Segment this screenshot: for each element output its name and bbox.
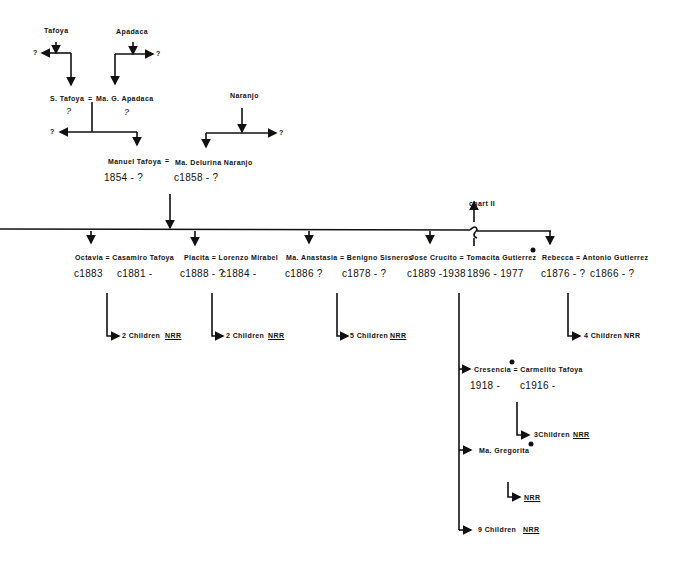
nrr-note: NRR	[390, 332, 406, 339]
child-couple-placita: Placita = Lorenzo Mirabel	[184, 254, 278, 261]
child-dates: c1888 - ?	[180, 268, 224, 279]
dates-manuel-tafoya: 1854 - ?	[104, 172, 143, 183]
unknown-mark: ?	[156, 50, 161, 57]
grandchild-9-children: 9 Children	[478, 526, 516, 533]
descendants-count: 3Children	[534, 431, 570, 438]
dates-ma-delurina: c1858 - ?	[174, 172, 218, 183]
surname-tafoya: Tafoya	[44, 27, 68, 34]
child-couple-anastasia: Ma. Anastasia = Benigno Sisneros	[286, 254, 413, 261]
marriage-sign: =	[88, 95, 93, 102]
nrr-note: NRR	[624, 332, 640, 339]
grandchild-dates: 1918 -	[470, 380, 500, 391]
grandchild-dates: c1916 -	[520, 380, 555, 391]
surname-naranjo: Naranjo	[230, 92, 259, 99]
child-couple-jose: Jose Crucito = Tomacita Gutierrez	[410, 254, 536, 261]
unknown-mark: ?	[33, 49, 38, 56]
descendants-count: 2 Children	[122, 332, 160, 339]
person-ma-g-apadaca: Ma. G. Apadaca	[96, 95, 153, 102]
child-dates: c1878 - ?	[342, 268, 386, 279]
descendants-count: 2 Children	[226, 332, 264, 339]
child-dates: c1881 -	[117, 268, 152, 279]
unknown-mark: ?	[50, 128, 55, 135]
person-s-tafoya: S. Tafoya	[50, 95, 84, 102]
person-manuel-tafoya: Manuel Tafoya	[108, 158, 161, 165]
child-dates: c1876 - ?	[541, 268, 585, 279]
surname-apadaca: Apadaca	[116, 28, 148, 35]
grandchild-ma-gregorita: Ma. Gregorita	[479, 447, 529, 454]
unknown-mark: ?	[279, 129, 284, 136]
nrr-note: NRR	[165, 332, 181, 339]
person-ma-delurina-naranjo: Ma. Delurina Naranjo	[175, 159, 253, 166]
nrr-note: NRR	[524, 494, 540, 501]
child-dates: c1886 ?	[285, 268, 323, 279]
child-dates: 1896 - 1977	[467, 268, 524, 279]
descendants-count: 5 Children	[350, 332, 388, 339]
child-couple-octavia: Octavia = Casamiro Tafoya	[75, 254, 174, 261]
chart-ii-link[interactable]: chart II	[469, 200, 495, 207]
dates-s-tafoya: ?	[66, 106, 71, 116]
child-dates: c1866 - ?	[590, 268, 634, 279]
child-dates: c1884 -	[221, 268, 256, 279]
tree-connectors	[0, 0, 679, 578]
nrr-note: NRR	[573, 431, 589, 438]
nrr-note: NRR	[523, 526, 539, 533]
child-dates: c1889 -1938	[407, 268, 466, 279]
child-dates: c1883	[74, 268, 103, 279]
grandchild-couple-cresencia: Cresencia = Carmelito Tafoya	[474, 366, 583, 373]
marriage-sign: =	[165, 157, 170, 164]
descendants-count: 4 Children	[584, 332, 622, 339]
nrr-note: NRR	[268, 332, 284, 339]
child-couple-rebecca: Rebecca = Antonio Gutierrez	[542, 254, 648, 261]
dates-ma-g-apadaca: ?	[124, 107, 129, 117]
